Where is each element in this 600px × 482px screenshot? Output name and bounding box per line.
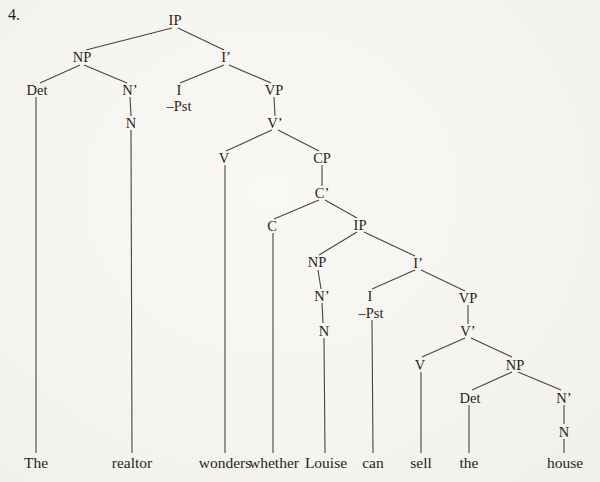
tree-node-v-bar-main: V’ bbox=[267, 115, 282, 131]
tree-node-vp-embedded: VP bbox=[459, 290, 478, 306]
tree-edge-i-bar-main-to-vp-main bbox=[229, 65, 271, 83]
tree-node-ip-embedded: IP bbox=[354, 217, 367, 233]
scanned-page: 4. IPNPI’DetN’I–PstVPNV’VCPC’CIPNPI’N’I–… bbox=[0, 0, 600, 482]
tree-node-np-embedded-subject: NP bbox=[308, 254, 327, 270]
tree-node-ip-main: IP bbox=[169, 12, 182, 28]
leaf-word-the-1: The bbox=[24, 454, 48, 471]
tree-edges bbox=[36, 28, 564, 453]
tree-node-n-bar-subject: N’ bbox=[122, 82, 137, 98]
leaf-word-louise: Louise bbox=[305, 454, 347, 471]
tree-nodes: IPNPI’DetN’I–PstVPNV’VCPC’CIPNPI’N’I–Pst… bbox=[27, 12, 572, 440]
tree-edge-c-bar-to-c bbox=[274, 200, 319, 219]
tree-node-n-subject: N bbox=[126, 115, 137, 131]
tree-node-n-bar-object: N’ bbox=[556, 390, 571, 406]
tree-edge-np-embedded-subject-to-n-bar-embedded bbox=[318, 270, 321, 289]
tree-edge-v-bar-main-to-v-main bbox=[226, 130, 272, 151]
tree-edge-n-embedded-to-word-louise bbox=[324, 338, 325, 453]
leaf-word-sell: sell bbox=[410, 454, 432, 471]
tree-node-det-subject: Det bbox=[27, 82, 48, 98]
tree-edge-ip-main-to-np-subject bbox=[86, 28, 172, 50]
tree-node-cp: CP bbox=[313, 150, 331, 166]
tree-edge-v-bar-embedded-to-v-embedded bbox=[422, 338, 465, 357]
tree-edge-pst-embedded-to-word-can bbox=[372, 320, 373, 453]
leaf-word-house: house bbox=[547, 454, 583, 471]
tree-node-i-bar-main: I’ bbox=[221, 49, 231, 65]
tree-node-n-bar-embedded: N’ bbox=[314, 288, 329, 304]
tree-node-np-subject: NP bbox=[73, 49, 92, 65]
tree-edge-np-object-to-det-object bbox=[472, 372, 512, 390]
tree-node-i-embedded: I bbox=[368, 288, 373, 304]
leaf-word-realtor: realtor bbox=[112, 454, 153, 471]
tree-node-pst-main: –Pst bbox=[166, 98, 192, 114]
tree-edge-vp-main-to-v-bar-main bbox=[274, 97, 275, 116]
tree-node-n-object: N bbox=[559, 424, 570, 440]
tree-node-v-embedded: V bbox=[415, 357, 426, 373]
tree-edge-ip-main-to-i-bar-main bbox=[178, 28, 224, 50]
tree-node-det-object: Det bbox=[460, 390, 481, 406]
tree-node-n-embedded: N bbox=[319, 323, 330, 339]
tree-edge-np-subject-to-det-subject bbox=[40, 65, 80, 83]
tree-edge-i-bar-main-to-i-main bbox=[180, 65, 224, 83]
tree-edge-n-bar-embedded-to-n-embedded bbox=[322, 303, 323, 323]
tree-edge-i-bar-embedded-to-vp-embedded bbox=[421, 270, 465, 291]
tree-edge-v-bar-embedded-to-np-object bbox=[471, 338, 512, 357]
tree-edge-np-object-to-n-bar-object bbox=[518, 372, 561, 390]
leaf-word-whether: whether bbox=[249, 454, 300, 471]
tree-node-i-main: I bbox=[177, 82, 182, 98]
tree-edge-v-bar-main-to-cp bbox=[278, 130, 319, 151]
tree-edge-n-bar-subject-to-n-subject bbox=[130, 97, 131, 116]
tree-edge-i-bar-embedded-to-i-embedded bbox=[372, 270, 415, 289]
tree-node-pst-embedded: –Pst bbox=[358, 305, 384, 321]
tree-edge-n-subject-to-word-realtor bbox=[131, 130, 132, 453]
item-number: 4. bbox=[8, 6, 20, 23]
tree-edge-c-bar-to-ip-embedded bbox=[325, 200, 357, 218]
tree-node-v-bar-embedded: V’ bbox=[460, 323, 475, 339]
tree-leaf-words: TherealtorwonderswhetherLouisecansellthe… bbox=[24, 454, 583, 471]
tree-edge-np-subject-to-n-bar-subject bbox=[84, 65, 127, 83]
tree-node-np-object: NP bbox=[506, 357, 525, 373]
tree-node-c-bar: C’ bbox=[315, 185, 330, 201]
leaf-word-wonders: wonders bbox=[199, 454, 252, 471]
tree-node-vp-main: VP bbox=[265, 82, 284, 98]
leaf-word-can: can bbox=[362, 454, 384, 471]
tree-node-i-bar-embedded: I’ bbox=[413, 255, 423, 271]
leaf-word-the-2: the bbox=[460, 454, 479, 471]
tree-edge-ip-embedded-to-i-bar-embedded bbox=[364, 232, 415, 256]
tree-node-c: C bbox=[267, 218, 277, 234]
tree-node-v-main: V bbox=[219, 150, 230, 166]
tree-edge-ip-embedded-to-np-embedded-subject bbox=[319, 232, 357, 255]
syntax-tree-diagram: 4. IPNPI’DetN’I–PstVPNV’VCPC’CIPNPI’N’I–… bbox=[0, 0, 600, 482]
